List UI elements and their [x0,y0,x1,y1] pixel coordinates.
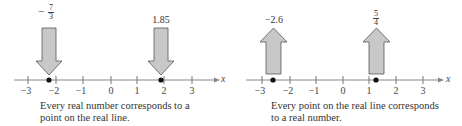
tick-label: −3 [255,85,266,96]
caption-left: Every real number corresponds to a point… [40,100,190,124]
point-label-neg-7-3: − 7 3 [48,4,54,21]
up-arrow-icon [363,28,390,74]
tick-label: 2 [162,85,167,96]
tick-label: 3 [190,85,195,96]
tick-label: −2 [49,85,60,96]
point-label-neg-2-6: −2.6 [265,14,283,25]
tick-label: −1 [309,85,320,96]
tick-label: −2 [283,85,294,96]
up-arrow-icon [260,28,287,74]
tick-label: 0 [341,85,346,96]
tick-label: 1 [367,85,372,96]
tick-label: −1 [76,85,87,96]
axis-label-x: x [221,73,225,84]
tick-label: 1 [135,85,140,96]
axis-label-x: x [446,73,450,84]
right-number-line [246,28,444,84]
tick-label: 3 [421,85,426,96]
down-arrow-icon [148,28,174,75]
point-label-1-85: 1.85 [152,14,170,25]
point-label-5-4: 5 4 [373,10,379,27]
left-number-line [14,28,220,84]
tick-label: 2 [394,85,399,96]
tick-label: 0 [109,85,114,96]
caption-right: Every point on the real line corresponds… [271,100,439,124]
down-arrow-icon [36,28,62,75]
tick-label: −3 [21,85,32,96]
